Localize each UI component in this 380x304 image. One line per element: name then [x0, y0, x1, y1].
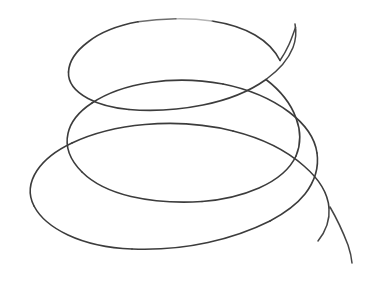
- drawing-canvas: Hand-drawn 3D spiral (helix) A freehand …: [0, 0, 380, 304]
- spiral-figure: Hand-drawn 3D spiral (helix) A freehand …: [0, 0, 380, 304]
